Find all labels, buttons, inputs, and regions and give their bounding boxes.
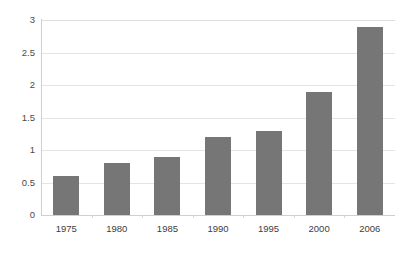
bar-slot bbox=[193, 20, 244, 215]
bar-1975[interactable] bbox=[53, 176, 79, 215]
y-axis-tick-labels: 32.521.510.50 bbox=[0, 0, 35, 260]
bar-slot bbox=[41, 20, 92, 215]
x-tick-mark bbox=[142, 215, 143, 218]
x-tick-label-1975: 1975 bbox=[41, 224, 92, 234]
bar-1980[interactable] bbox=[104, 163, 130, 215]
y-tick-label: 0 bbox=[0, 210, 35, 220]
x-tick-label-2000: 2000 bbox=[294, 224, 345, 234]
x-axis-line bbox=[41, 215, 395, 216]
x-tick-label-1980: 1980 bbox=[92, 224, 143, 234]
x-tick-label-1995: 1995 bbox=[243, 224, 294, 234]
y-tick-label: 3 bbox=[0, 15, 35, 25]
x-tick-mark bbox=[344, 215, 345, 218]
bar-1995[interactable] bbox=[256, 131, 282, 216]
bar-1985[interactable] bbox=[154, 157, 180, 216]
y-tick-label: 1.5 bbox=[0, 113, 35, 123]
x-tick-label-1985: 1985 bbox=[142, 224, 193, 234]
y-tick-label: 0.5 bbox=[0, 178, 35, 188]
y-tick-label: 2.5 bbox=[0, 48, 35, 58]
bar-slot bbox=[142, 20, 193, 215]
y-tick-label: 1 bbox=[0, 145, 35, 155]
bar-slot bbox=[92, 20, 143, 215]
bar-slot bbox=[243, 20, 294, 215]
x-tick-mark bbox=[193, 215, 194, 218]
x-tick-mark bbox=[243, 215, 244, 218]
x-tick-label-2006: 2006 bbox=[344, 224, 395, 234]
x-axis-tick-labels: 1975198019851990199520002006 bbox=[41, 224, 395, 244]
x-tick-mark bbox=[92, 215, 93, 218]
x-tick-mark bbox=[294, 215, 295, 218]
y-tick-label: 2 bbox=[0, 80, 35, 90]
bar-1990[interactable] bbox=[205, 137, 231, 215]
bar-chart: 32.521.510.50 19751980198519901995200020… bbox=[0, 0, 412, 260]
bar-slot bbox=[294, 20, 345, 215]
plot-area bbox=[41, 20, 395, 215]
bar-2006[interactable] bbox=[357, 27, 383, 216]
x-tick-label-1990: 1990 bbox=[193, 224, 244, 234]
bar-slot bbox=[344, 20, 395, 215]
bar-2000[interactable] bbox=[306, 92, 332, 216]
